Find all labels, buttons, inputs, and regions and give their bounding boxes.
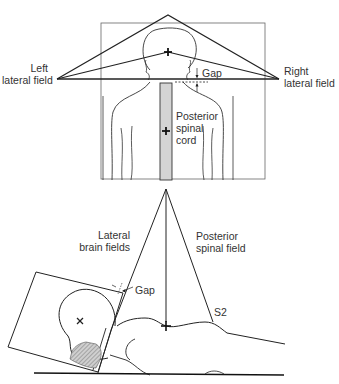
right-lateral-label-line2: lateral field xyxy=(284,77,335,89)
craniospinal-diagram: Left lateral field Right lateral field G… xyxy=(0,0,339,384)
top-gap-label: Gap xyxy=(202,67,222,79)
side-view xyxy=(8,189,285,375)
hatched-block xyxy=(70,342,101,368)
side-gap-label: Gap xyxy=(135,284,155,296)
spinal-field-label-line2: spinal field xyxy=(196,242,246,254)
posterior-spinal-cord-label: Posterior spinal cord xyxy=(176,110,218,146)
left-lateral-field-label: Left lateral field xyxy=(2,62,48,86)
left-lateral-label-line1: Left xyxy=(2,62,48,74)
right-lateral-label-line1: Right xyxy=(284,65,335,77)
brain-field-rect xyxy=(8,272,123,372)
left-torso-outline xyxy=(112,82,150,180)
left-lateral-label-line2: lateral field xyxy=(2,74,48,86)
treatment-table xyxy=(34,373,284,375)
right-lateral-field-label: Right lateral field xyxy=(284,65,335,89)
spinal-field-label-line1: Posterior xyxy=(196,230,246,242)
field-frame xyxy=(101,23,265,179)
lateral-field-outline xyxy=(57,15,279,79)
spinal-cord-label-line3: cord xyxy=(176,134,218,146)
back-contour xyxy=(117,318,285,344)
head-outline xyxy=(143,28,196,70)
brain-fields-label-line1: Lateral xyxy=(70,229,130,241)
diagram-drawing xyxy=(0,0,339,384)
spinal-cord-label-line1: Posterior xyxy=(176,110,218,122)
s2-label: S2 xyxy=(214,306,227,318)
brain-fields-label-line2: brain fields xyxy=(70,241,130,253)
top-view xyxy=(57,15,279,180)
posterior-spinal-field-label: Posterior spinal field xyxy=(196,230,246,254)
spinal-cord-label-line2: spinal xyxy=(176,122,218,134)
lateral-brain-fields-label: Lateral brain fields xyxy=(70,229,130,253)
